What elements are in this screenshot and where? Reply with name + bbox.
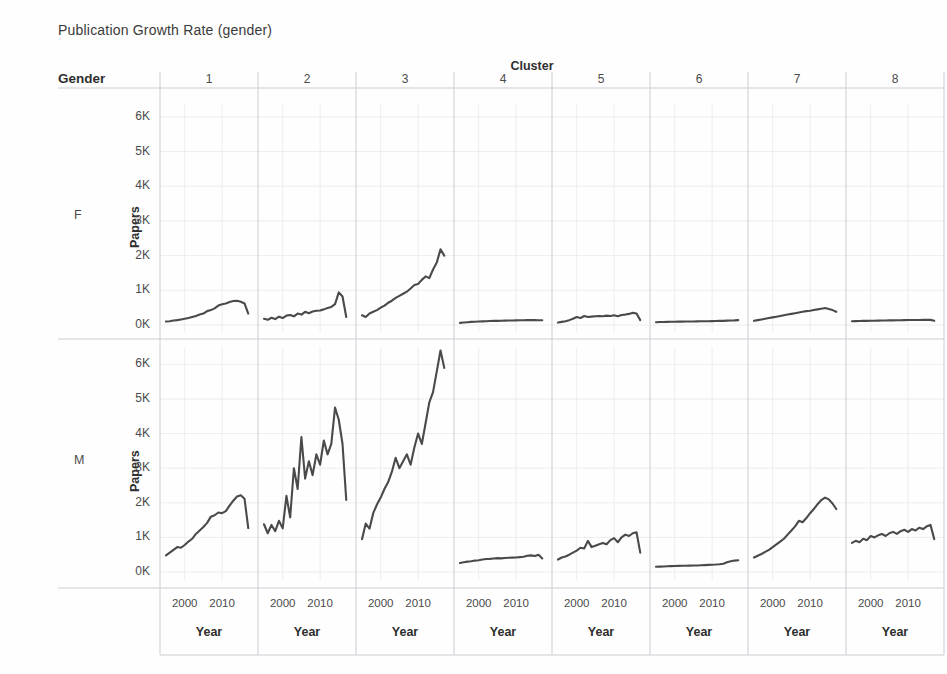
x-axis-title-cluster-8: Year <box>882 625 908 639</box>
facet-panel-F-6[interactable] <box>650 105 748 332</box>
x-tick-cluster-2-2000: 2000 <box>270 597 296 609</box>
x-axis-title-cluster-1: Year <box>196 625 222 639</box>
x-tick-cluster-7-2010: 2010 <box>797 597 823 609</box>
column-facet-header: Cluster <box>510 59 553 73</box>
facet-panel-F-5[interactable] <box>552 105 650 332</box>
facet-panel-F-3[interactable] <box>356 105 454 332</box>
facet-panel-M-1[interactable] <box>160 347 258 580</box>
row-label-gender-M: M <box>74 453 84 467</box>
row-label-gender-F: F <box>74 208 82 222</box>
y-tick-F-4K: 4K <box>112 178 150 192</box>
column-label-cluster-7: 7 <box>794 72 801 86</box>
x-axis-title-cluster-5: Year <box>588 625 614 639</box>
column-label-cluster-1: 1 <box>206 72 213 86</box>
facet-panel-F-4[interactable] <box>454 105 552 332</box>
facet-panel-F-2[interactable] <box>258 105 356 332</box>
chart-canvas: Publication Growth Rate (gender) Gender … <box>0 0 947 674</box>
y-tick-M-0K: 0K <box>112 564 150 578</box>
facet-panel-M-5[interactable] <box>552 347 650 580</box>
column-label-cluster-5: 5 <box>598 72 605 86</box>
x-tick-cluster-6-2010: 2010 <box>699 597 725 609</box>
facet-panel-M-2[interactable] <box>258 347 356 580</box>
x-axis-title-cluster-6: Year <box>686 625 712 639</box>
row-facet-header: Gender <box>58 71 105 86</box>
facet-panel-M-8[interactable] <box>846 347 944 580</box>
y-tick-M-4K: 4K <box>112 426 150 440</box>
x-axis-title-cluster-4: Year <box>490 625 516 639</box>
x-tick-cluster-1-2000: 2000 <box>172 597 198 609</box>
x-tick-cluster-4-2010: 2010 <box>503 597 529 609</box>
y-tick-F-6K: 6K <box>112 109 150 123</box>
facet-panel-M-4[interactable] <box>454 347 552 580</box>
x-tick-cluster-7-2000: 2000 <box>760 597 786 609</box>
column-label-cluster-2: 2 <box>304 72 311 86</box>
facet-panel-M-3[interactable] <box>356 347 454 580</box>
page-title: Publication Growth Rate (gender) <box>58 22 272 38</box>
x-tick-cluster-3-2010: 2010 <box>405 597 431 609</box>
facet-panel-F-7[interactable] <box>748 105 846 332</box>
x-tick-cluster-8-2000: 2000 <box>858 597 884 609</box>
x-axis-title-cluster-2: Year <box>294 625 320 639</box>
column-label-cluster-3: 3 <box>402 72 409 86</box>
column-label-cluster-4: 4 <box>500 72 507 86</box>
column-label-cluster-8: 8 <box>892 72 899 86</box>
facet-panel-F-1[interactable] <box>160 105 258 332</box>
facet-panel-M-7[interactable] <box>748 347 846 580</box>
facet-panel-F-8[interactable] <box>846 105 944 332</box>
x-tick-cluster-8-2010: 2010 <box>895 597 921 609</box>
x-axis-title-cluster-3: Year <box>392 625 418 639</box>
x-tick-cluster-3-2000: 2000 <box>368 597 394 609</box>
facet-panel-M-6[interactable] <box>650 347 748 580</box>
y-tick-M-2K: 2K <box>112 495 150 509</box>
y-tick-M-5K: 5K <box>112 391 150 405</box>
column-label-cluster-6: 6 <box>696 72 703 86</box>
x-tick-cluster-5-2000: 2000 <box>564 597 590 609</box>
y-tick-F-0K: 0K <box>112 317 150 331</box>
x-tick-cluster-5-2010: 2010 <box>601 597 627 609</box>
y-tick-F-2K: 2K <box>112 248 150 262</box>
x-axis-title-cluster-7: Year <box>784 625 810 639</box>
x-tick-cluster-2-2010: 2010 <box>307 597 333 609</box>
x-tick-cluster-1-2010: 2010 <box>209 597 235 609</box>
y-tick-M-6K: 6K <box>112 356 150 370</box>
y-tick-M-3K: 3K <box>112 460 150 474</box>
y-tick-M-1K: 1K <box>112 529 150 543</box>
x-tick-cluster-6-2000: 2000 <box>662 597 688 609</box>
y-tick-F-5K: 5K <box>112 144 150 158</box>
y-tick-F-3K: 3K <box>112 213 150 227</box>
y-tick-F-1K: 1K <box>112 282 150 296</box>
x-tick-cluster-4-2000: 2000 <box>466 597 492 609</box>
